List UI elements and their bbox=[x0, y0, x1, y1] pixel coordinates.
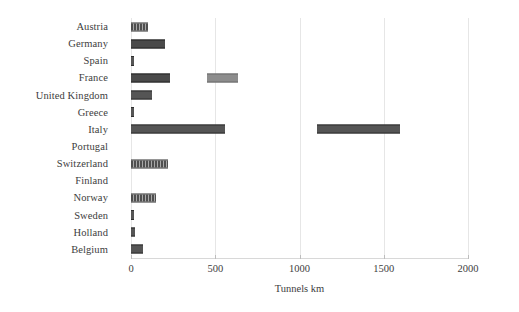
x-tick-label: 1000 bbox=[289, 263, 310, 274]
bar-row: Switzerland bbox=[0, 155, 468, 172]
category-label: Belgium bbox=[0, 241, 108, 258]
bar-row: Spain bbox=[0, 52, 468, 69]
bar-segment bbox=[131, 210, 134, 220]
bar-row: Sweden bbox=[0, 207, 468, 224]
bar-segment bbox=[131, 91, 152, 100]
bar-segment bbox=[131, 56, 134, 66]
bar-segment bbox=[131, 245, 143, 254]
category-label: Germany bbox=[0, 35, 108, 52]
bar-segment bbox=[317, 125, 400, 134]
tunnels-km-bar-chart: AustriaGermanySpainFranceUnited KingdomG… bbox=[0, 0, 519, 312]
bar-row: United Kingdom bbox=[0, 87, 468, 104]
bar-segment bbox=[207, 73, 238, 82]
tick-mark-1500 bbox=[384, 255, 385, 259]
x-tick-label: 500 bbox=[207, 263, 223, 274]
bar-segment bbox=[131, 39, 165, 48]
bar-segment bbox=[131, 22, 148, 31]
bar-row: Greece bbox=[0, 104, 468, 121]
bar-segment bbox=[131, 193, 156, 202]
category-label: Spain bbox=[0, 52, 108, 69]
bar-row: Austria bbox=[0, 18, 468, 35]
bar-row: Finland bbox=[0, 172, 468, 189]
bar-row: Holland bbox=[0, 224, 468, 241]
tick-mark-500 bbox=[215, 255, 216, 259]
tick-mark-0 bbox=[131, 255, 132, 259]
category-label: France bbox=[0, 69, 108, 86]
gridline-2000 bbox=[468, 18, 469, 258]
category-label: Switzerland bbox=[0, 155, 108, 172]
bar-row: Portugal bbox=[0, 138, 468, 155]
x-tick-label: 1500 bbox=[373, 263, 394, 274]
bar-segment bbox=[131, 73, 170, 82]
bar-row: Italy bbox=[0, 121, 468, 138]
bar-row: France bbox=[0, 69, 468, 86]
bar-segment bbox=[131, 228, 135, 237]
x-tick-label: 2000 bbox=[458, 263, 479, 274]
bar-row: Norway bbox=[0, 189, 468, 206]
bar-segment bbox=[131, 107, 134, 117]
category-label: Italy bbox=[0, 121, 108, 138]
bar-row: Germany bbox=[0, 35, 468, 52]
category-label: Holland bbox=[0, 224, 108, 241]
bar-row: Belgium bbox=[0, 241, 468, 258]
bar-segment bbox=[131, 159, 168, 168]
category-label: Norway bbox=[0, 189, 108, 206]
x-axis-title: Tunnels km bbox=[131, 283, 468, 294]
plot-area: AustriaGermanySpainFranceUnited KingdomG… bbox=[131, 18, 468, 258]
category-label: Portugal bbox=[0, 138, 108, 155]
category-label: Greece bbox=[0, 104, 108, 121]
category-label: Sweden bbox=[0, 207, 108, 224]
category-label: Austria bbox=[0, 18, 108, 35]
tick-mark-2000 bbox=[468, 255, 469, 259]
category-label: United Kingdom bbox=[0, 87, 108, 104]
tick-mark-1000 bbox=[300, 255, 301, 259]
x-tick-label: 0 bbox=[128, 263, 133, 274]
category-label: Finland bbox=[0, 172, 108, 189]
bar-segment bbox=[131, 125, 225, 134]
